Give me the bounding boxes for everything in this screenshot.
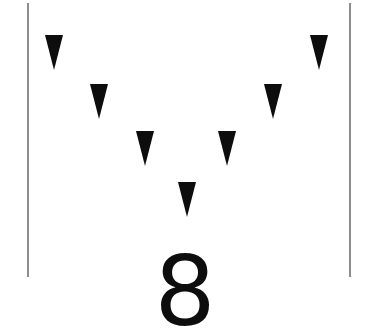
triangle-down-icon-1 xyxy=(45,35,63,70)
triangle-down-icon-2 xyxy=(90,84,108,119)
left-reference-rule xyxy=(27,3,29,277)
triangle-down-icon-6 xyxy=(264,84,282,119)
stimulus-canvas: 8 xyxy=(0,0,370,336)
numeral-readout: 8 xyxy=(0,244,370,336)
triangle-down-icon-7 xyxy=(310,35,328,70)
right-reference-rule xyxy=(349,3,351,277)
triangle-down-icon-5 xyxy=(218,131,236,166)
triangle-down-icon-4 xyxy=(178,182,196,217)
triangle-down-icon-3 xyxy=(136,131,154,166)
